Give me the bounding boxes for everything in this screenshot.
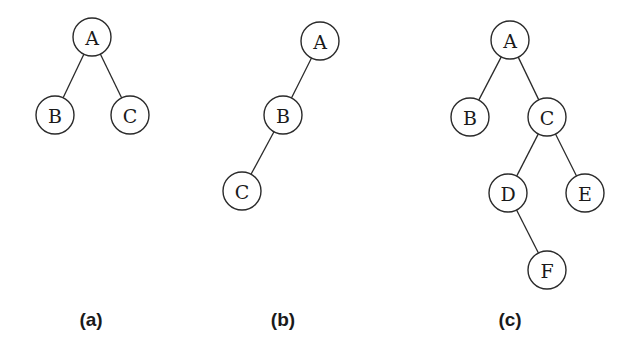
edge-c-A-C xyxy=(518,57,539,100)
edge-c-D-F xyxy=(517,210,539,253)
tree-node-a-B: B xyxy=(36,96,74,134)
edge-a-A-B xyxy=(63,54,84,98)
edge-c-C-D xyxy=(517,134,539,176)
tree-node-c-E: E xyxy=(566,174,604,212)
tree-node-a-A: A xyxy=(73,18,111,56)
edge-c-A-B xyxy=(479,57,501,100)
node-label: C xyxy=(540,107,555,129)
node-label: B xyxy=(276,105,290,127)
tree-node-c-B: B xyxy=(451,98,489,136)
node-label: A xyxy=(84,27,99,49)
node-label: A xyxy=(502,30,517,52)
caption-tree-c: (c) xyxy=(498,309,521,331)
node-label: C xyxy=(123,105,138,127)
tree-node-a-C: C xyxy=(111,96,149,134)
tree-node-b-B: B xyxy=(264,96,302,134)
node-label: D xyxy=(500,183,515,205)
edge-b-B-C xyxy=(251,132,274,175)
node-label: C xyxy=(235,181,250,203)
node-label: A xyxy=(312,31,327,53)
caption-tree-b: (b) xyxy=(271,309,295,331)
node-label: B xyxy=(463,107,477,129)
node-label: E xyxy=(578,183,592,205)
tree-node-b-A: A xyxy=(301,22,339,60)
node-label: F xyxy=(540,260,553,282)
tree-node-c-C: C xyxy=(528,98,566,136)
caption-tree-a: (a) xyxy=(79,309,102,331)
binary-trees-figure: ABCABCABCDEF xyxy=(0,0,640,352)
tree-node-c-D: D xyxy=(489,174,527,212)
node-label: B xyxy=(48,105,62,127)
tree-node-b-C: C xyxy=(223,172,261,210)
edges-layer xyxy=(63,54,576,253)
edge-b-A-B xyxy=(291,58,311,98)
edge-a-A-C xyxy=(100,54,121,98)
tree-node-c-F: F xyxy=(528,251,566,289)
tree-node-c-A: A xyxy=(491,21,529,59)
edge-c-C-E xyxy=(555,134,576,176)
